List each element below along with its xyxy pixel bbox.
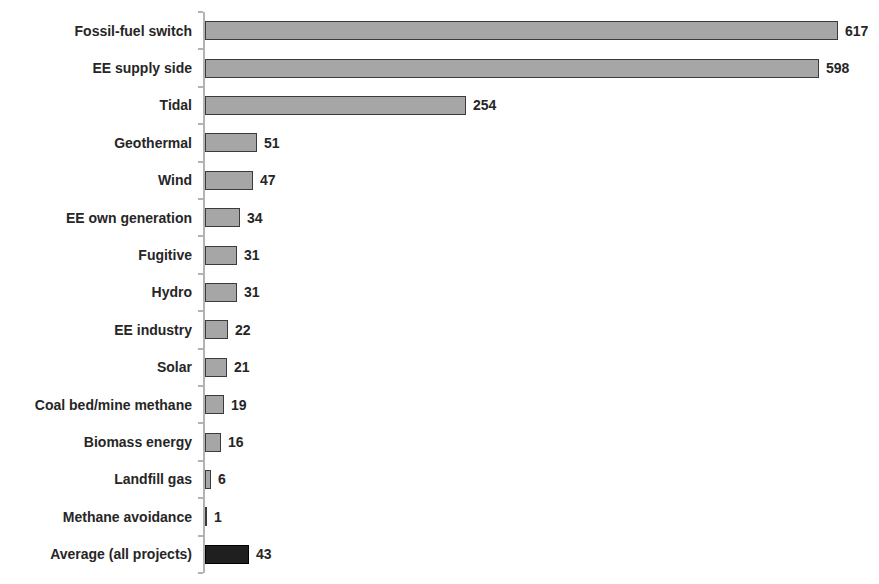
chart-row: Methane avoidance1 xyxy=(0,498,879,535)
bar xyxy=(205,507,207,526)
chart-row: Solar21 xyxy=(0,349,879,386)
chart-row: Wind47 xyxy=(0,162,879,199)
value-label: 43 xyxy=(256,546,272,562)
bar xyxy=(205,433,221,452)
value-label: 51 xyxy=(264,135,280,151)
bar-area: 254 xyxy=(204,87,879,124)
bar xyxy=(205,133,257,152)
category-label: Biomass energy xyxy=(0,434,204,450)
chart-row: EE industry22 xyxy=(0,311,879,348)
chart-row: Fugitive31 xyxy=(0,236,879,273)
chart-rows: Fossil-fuel switch617EE supply side598Ti… xyxy=(0,12,879,573)
value-label: 598 xyxy=(826,60,849,76)
bar xyxy=(205,171,253,190)
category-label: Fugitive xyxy=(0,247,204,263)
bar xyxy=(205,21,838,40)
category-label: Hydro xyxy=(0,284,204,300)
value-label: 254 xyxy=(473,97,496,113)
bar xyxy=(205,283,237,302)
chart-row: Hydro31 xyxy=(0,274,879,311)
chart-row: Geothermal51 xyxy=(0,124,879,161)
value-label: 19 xyxy=(231,397,247,413)
chart-row: Biomass energy16 xyxy=(0,423,879,460)
bar xyxy=(205,59,819,78)
chart-row: Fossil-fuel switch617 xyxy=(0,12,879,49)
category-label: Tidal xyxy=(0,97,204,113)
value-label: 617 xyxy=(845,23,868,39)
bar-area: 6 xyxy=(204,461,879,498)
bar-area: 47 xyxy=(204,162,879,199)
bar-area: 51 xyxy=(204,124,879,161)
horizontal-bar-chart: Fossil-fuel switch617EE supply side598Ti… xyxy=(0,0,879,584)
bar-area: 43 xyxy=(204,536,879,573)
bar xyxy=(205,246,237,265)
category-label: Average (all projects) xyxy=(0,546,204,562)
chart-row: EE supply side598 xyxy=(0,49,879,86)
chart-row: Landfill gas6 xyxy=(0,461,879,498)
bar-area: 16 xyxy=(204,423,879,460)
value-label: 21 xyxy=(234,359,250,375)
bar xyxy=(205,358,227,377)
average-bar xyxy=(205,545,249,564)
bar-area: 1 xyxy=(204,498,879,535)
category-label: Wind xyxy=(0,172,204,188)
value-label: 22 xyxy=(235,322,251,338)
category-label: Fossil-fuel switch xyxy=(0,23,204,39)
chart-row: Coal bed/mine methane19 xyxy=(0,386,879,423)
category-label: EE supply side xyxy=(0,60,204,76)
bar-area: 34 xyxy=(204,199,879,236)
value-label: 34 xyxy=(247,210,263,226)
value-label: 31 xyxy=(244,247,260,263)
bar-area: 31 xyxy=(204,274,879,311)
bar-area: 31 xyxy=(204,236,879,273)
category-label: EE own generation xyxy=(0,210,204,226)
bar-area: 598 xyxy=(204,49,879,86)
chart-row: Tidal254 xyxy=(0,87,879,124)
value-label: 6 xyxy=(218,471,226,487)
bar xyxy=(205,395,224,414)
bar xyxy=(205,208,240,227)
bar-area: 617 xyxy=(204,12,879,49)
value-label: 31 xyxy=(244,284,260,300)
category-label: Coal bed/mine methane xyxy=(0,397,204,413)
bar-area: 22 xyxy=(204,311,879,348)
value-label: 47 xyxy=(260,172,276,188)
chart-row: Average (all projects)43 xyxy=(0,536,879,573)
category-label: Methane avoidance xyxy=(0,509,204,525)
bar xyxy=(205,470,211,489)
category-label: Geothermal xyxy=(0,135,204,151)
bar-area: 19 xyxy=(204,386,879,423)
value-label: 1 xyxy=(214,509,222,525)
chart-row: EE own generation34 xyxy=(0,199,879,236)
category-label: Solar xyxy=(0,359,204,375)
bar xyxy=(205,96,466,115)
value-label: 16 xyxy=(228,434,244,450)
category-label: Landfill gas xyxy=(0,471,204,487)
category-label: EE industry xyxy=(0,322,204,338)
bar xyxy=(205,320,228,339)
bar-area: 21 xyxy=(204,349,879,386)
